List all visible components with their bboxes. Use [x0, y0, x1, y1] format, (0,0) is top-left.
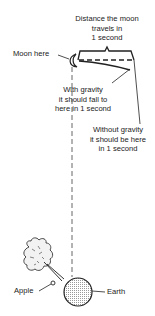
- without-gravity-line3: in 1 second: [90, 144, 146, 154]
- diagram-canvas: [0, 0, 155, 316]
- distance-label: Distance the moon travels in 1 second: [75, 14, 138, 43]
- earth-icon: [64, 278, 92, 306]
- tree-icon: [24, 238, 64, 281]
- distance-label-line1: Distance the moon: [75, 14, 138, 24]
- moon-label: Moon here: [13, 49, 49, 59]
- distance-bracket: [78, 47, 134, 60]
- curved-orbit-path: [79, 61, 130, 70]
- without-gravity-label: Without gravity it should be here in 1 s…: [90, 125, 146, 154]
- earth-leader: [92, 291, 105, 292]
- with-gravity-label: With gravity it should fall to here in 1…: [55, 85, 111, 114]
- without-gravity-leader: [134, 60, 140, 124]
- distance-label-line2: travels in: [75, 24, 138, 34]
- with-gravity-line3: here in 1 second: [55, 104, 111, 114]
- earth-label: Earth: [107, 287, 125, 297]
- with-gravity-leader: [112, 69, 130, 83]
- with-gravity-line2: it should fall to: [55, 95, 111, 105]
- distance-label-line3: 1 second: [75, 33, 138, 43]
- with-gravity-line1: With gravity: [55, 85, 111, 95]
- without-gravity-line2: it should be here: [90, 135, 146, 145]
- moon-leader: [58, 55, 69, 59]
- moon-icon: [70, 54, 77, 67]
- without-gravity-line1: Without gravity: [90, 125, 146, 135]
- apple-label: Apple: [14, 286, 33, 296]
- apple-icon: [39, 281, 55, 291]
